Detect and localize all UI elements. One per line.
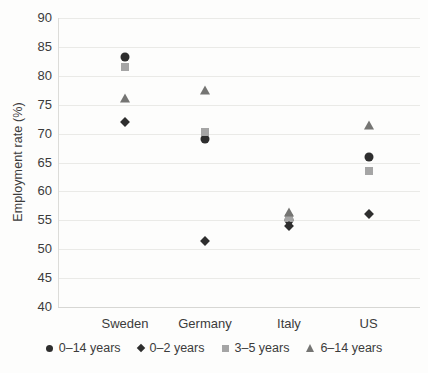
y-tick-label: 50 bbox=[18, 241, 52, 257]
y-axis-line bbox=[58, 18, 59, 307]
y-tick-label: 65 bbox=[18, 155, 52, 171]
diamond-marker-icon bbox=[136, 344, 144, 352]
y-tick-label: 45 bbox=[18, 270, 52, 286]
legend-item-circle: 0–14 years bbox=[46, 341, 121, 355]
gridline bbox=[58, 76, 420, 77]
diamond-marker-sweden bbox=[120, 117, 130, 127]
y-tick-label: 85 bbox=[18, 39, 52, 55]
gridline bbox=[58, 220, 420, 221]
gridline bbox=[58, 191, 420, 192]
gridline bbox=[58, 134, 420, 135]
legend: 0–14 years0–2 years3–5 years6–14 years bbox=[0, 341, 428, 355]
triangle-marker-sweden bbox=[120, 94, 130, 103]
x-category-label-us: US bbox=[360, 316, 378, 331]
diamond-marker-us bbox=[364, 209, 374, 219]
legend-item-triangle: 6–14 years bbox=[306, 341, 382, 355]
square-marker-germany bbox=[201, 128, 209, 136]
plot-area bbox=[58, 18, 420, 307]
x-category-label-italy: Italy bbox=[277, 316, 301, 331]
circle-marker-icon bbox=[46, 345, 53, 352]
legend-label: 0–14 years bbox=[59, 341, 121, 355]
x-axis-line bbox=[58, 307, 420, 308]
legend-label: 3–5 years bbox=[235, 341, 290, 355]
gridline bbox=[58, 105, 420, 106]
triangle-marker-germany bbox=[200, 85, 210, 94]
diamond-marker-germany bbox=[200, 236, 210, 246]
y-tick-label: 70 bbox=[18, 126, 52, 142]
legend-label: 0–2 years bbox=[150, 341, 205, 355]
y-tick-label: 60 bbox=[18, 183, 52, 199]
legend-item-diamond: 0–2 years bbox=[138, 341, 205, 355]
employment-rate-scatter-chart: Employment rate (%) 40455055606570758085… bbox=[0, 0, 428, 373]
gridline bbox=[58, 47, 420, 48]
legend-label: 6–14 years bbox=[320, 341, 382, 355]
square-marker-sweden bbox=[121, 63, 129, 71]
y-tick-label: 90 bbox=[18, 10, 52, 26]
y-tick-label: 80 bbox=[18, 68, 52, 84]
x-category-label-sweden: Sweden bbox=[101, 316, 148, 331]
triangle-marker-us bbox=[364, 120, 374, 129]
diamond-marker-italy bbox=[284, 221, 294, 231]
gridline bbox=[58, 249, 420, 250]
circle-marker-germany bbox=[200, 135, 209, 144]
circle-marker-sweden bbox=[120, 53, 129, 62]
triangle-marker-icon bbox=[306, 344, 314, 352]
y-tick-label: 40 bbox=[18, 299, 52, 315]
legend-item-square: 3–5 years bbox=[222, 341, 290, 355]
y-tick-label: 55 bbox=[18, 212, 52, 228]
square-marker-icon bbox=[222, 345, 229, 352]
circle-marker-us bbox=[364, 152, 373, 161]
x-category-label-germany: Germany bbox=[178, 316, 231, 331]
gridline bbox=[58, 163, 420, 164]
y-tick-label: 75 bbox=[18, 97, 52, 113]
gridline bbox=[58, 18, 420, 19]
gridline bbox=[58, 278, 420, 279]
triangle-marker-italy bbox=[284, 207, 294, 216]
square-marker-us bbox=[365, 167, 373, 175]
